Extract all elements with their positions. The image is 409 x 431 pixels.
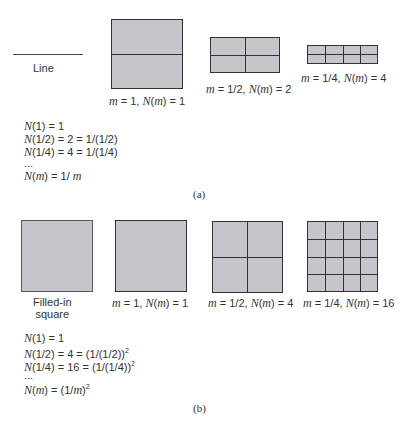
label-m-half-b: m = 1/2, N(m) = 4 bbox=[208, 296, 293, 311]
grid-m-quarter-b bbox=[307, 221, 378, 292]
filled-square-label: Filled-insquare bbox=[33, 296, 72, 320]
label-m1-b: m = 1, N(m) = 1 bbox=[112, 296, 188, 311]
filled-square bbox=[21, 220, 93, 292]
label-m-quarter-b: m = 1/4, N(m) = 16 bbox=[303, 296, 394, 311]
equation-b-1: N(1) = 1 bbox=[24, 332, 64, 344]
equation-a-2: N(1/2) = 2 = 1/(1/2) bbox=[24, 133, 118, 145]
equation-a-final: N(m) = 1/ m bbox=[24, 170, 81, 182]
square-m1-a bbox=[111, 19, 183, 89]
equation-a-1: N(1) = 1 bbox=[24, 120, 64, 132]
label-m1-a: m = 1, N(m) = 1 bbox=[109, 94, 185, 109]
equation-b-ellipsis: ... bbox=[24, 369, 33, 381]
label-m-quarter-a: m = 1/4, N(m) = 4 bbox=[301, 71, 386, 86]
line-shape bbox=[13, 54, 83, 55]
caption-b: (b) bbox=[193, 402, 206, 414]
equation-a-ellipsis: ... bbox=[24, 157, 33, 169]
equation-b-3: N(1/4) = 16 = (1/(1/4))2 bbox=[24, 358, 135, 373]
equation-a-3: N(1/4) = 4 = 1/(1/4) bbox=[24, 146, 118, 158]
equation-b-final: N(m) = (1/m)2 bbox=[24, 381, 90, 396]
square-m1-b bbox=[115, 220, 187, 292]
rect-m-half-a bbox=[210, 37, 280, 73]
caption-a: (a) bbox=[193, 188, 205, 200]
square-m-half-b bbox=[212, 221, 283, 293]
rect-m-quarter-a bbox=[307, 45, 378, 64]
label-m-half-a: m = 1/2, N(m) = 2 bbox=[206, 82, 291, 97]
line-label: Line bbox=[33, 62, 54, 74]
